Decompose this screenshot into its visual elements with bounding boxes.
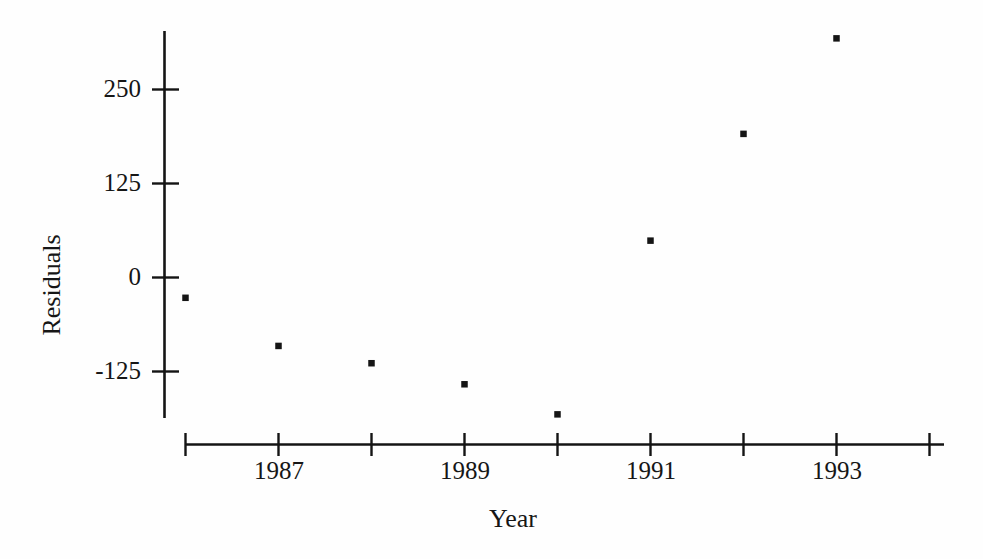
y-axis-title: Residuals	[37, 234, 67, 335]
y-tick-label-125: 125	[85, 169, 141, 197]
data-point-marker	[554, 411, 561, 418]
data-point-marker	[647, 237, 654, 244]
x-tick-label-1991: 1991	[626, 457, 676, 485]
x-tick-label-1989: 1989	[440, 457, 490, 485]
y-tick-label-250: 250	[85, 75, 141, 103]
data-point-marker	[368, 360, 375, 367]
data-point-marker	[833, 35, 840, 42]
y-tick-label-minus125: -125	[77, 357, 141, 385]
x-tick-label-1987: 1987	[254, 457, 304, 485]
chart-figure: 250 125 0 -125 1987 1989 1991 1993 Resid…	[0, 0, 983, 559]
data-point-layer	[182, 35, 840, 418]
x-tick-label-1993: 1993	[812, 457, 862, 485]
data-point-marker	[182, 295, 189, 302]
y-tick-label-0: 0	[85, 263, 141, 291]
data-point-marker	[740, 131, 747, 138]
data-point-marker	[461, 381, 468, 388]
data-point-marker	[275, 343, 282, 350]
x-axis-title: Year	[489, 504, 537, 534]
